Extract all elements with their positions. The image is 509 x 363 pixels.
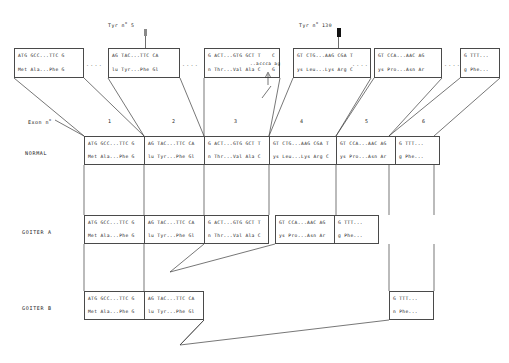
sequence-aminoacid: ys Pro...Asn Ar bbox=[378, 67, 439, 73]
tyr-marker-5-glyph bbox=[144, 29, 147, 36]
sequence-aminoacid: ys Pro...Asn Ar bbox=[279, 233, 332, 239]
sequence-nucleotide: GT CCA...AAC AG bbox=[378, 53, 439, 59]
exon-number-5: 5 bbox=[365, 118, 369, 124]
sequence-nucleotide: ATG GCC...TTC G bbox=[88, 220, 142, 226]
splice-base-above: C bbox=[272, 53, 275, 58]
normal-exon-6: G TTT... g Phe... bbox=[395, 136, 440, 165]
sequence-nucleotide: AG TAC...TTC CA bbox=[148, 141, 202, 147]
sequence-aminoacid: ys Leu...Lys Arg C bbox=[273, 154, 334, 160]
exon-number-6: 6 bbox=[422, 118, 426, 124]
sequence-aminoacid: lu Tyr...Phe Gl bbox=[148, 233, 202, 239]
top-box-exon-5: GT CCA...AAC AG ys Pro...Asn Ar bbox=[374, 48, 442, 78]
sequence-aminoacid: ys Pro...Asn Ar bbox=[340, 154, 393, 160]
row-label-normal: NORMAL bbox=[25, 150, 47, 156]
normal-exon-2: AG TAC...TTC CA lu Tyr...Phe Gl bbox=[144, 136, 204, 165]
ellipsis-top-5-6: .... bbox=[444, 61, 461, 67]
goiter-b-exon-2: AG TAC...TTC CA lu Tyr...Phe Gl bbox=[144, 291, 204, 320]
sequence-aminoacid: n Phe... bbox=[393, 309, 431, 315]
exon-number-3: 3 bbox=[234, 118, 238, 124]
goiter-b-exon-6: G TTT... n Phe... bbox=[389, 291, 434, 320]
sequence-nucleotide: AG TAC...TTC CA bbox=[112, 53, 177, 59]
sequence-nucleotide: G TTT... bbox=[338, 220, 376, 226]
sequence-nucleotide: G ACT...GTG GCT T bbox=[208, 53, 277, 59]
sequence-aminoacid: g Phe... bbox=[338, 233, 376, 239]
splice-base-below: G bbox=[272, 67, 275, 72]
exon-number-4: 4 bbox=[300, 118, 304, 124]
sequence-nucleotide: G ACT...GTG GCT T bbox=[208, 220, 266, 226]
sequence-nucleotide: G TTT... bbox=[399, 141, 437, 147]
goiter-a-exon-6: G TTT... g Phe... bbox=[334, 215, 379, 244]
tyr-marker-5-stem bbox=[145, 36, 146, 48]
tyr-marker-130-glyph bbox=[337, 28, 341, 37]
goiter-a-exon-3: G ACT...GTG GCT T n Thr...Val Ala C bbox=[204, 215, 269, 244]
sequence-aminoacid: n Thr...Val Ala C bbox=[208, 233, 266, 239]
normal-exon-1: ATG GCC...TTC G Met Ala...Phe G bbox=[84, 136, 144, 165]
sequence-nucleotide: ATG GCC...TTC G bbox=[18, 53, 81, 59]
exon-number-1: 1 bbox=[108, 118, 112, 124]
sequence-nucleotide: G TTT... bbox=[464, 53, 497, 59]
goiter-b-row-tail: G TTT... n Phe... bbox=[389, 291, 434, 320]
goiter-a-row-tail: GT CCA...AAC AG ys Pro...Asn Ar G TTT...… bbox=[275, 215, 379, 244]
row-label-goiter-a: GOITER A bbox=[22, 229, 52, 235]
sequence-nucleotide: ATG GCC...TTC G bbox=[88, 141, 142, 147]
normal-exon-5: GT CCA...AAC AG ys Pro...Asn Ar bbox=[336, 136, 395, 165]
sequence-nucleotide: GT CCA...AAC AG bbox=[340, 141, 393, 147]
sequence-aminoacid: ys Leu...Lys Arg C bbox=[297, 67, 368, 73]
sequence-aminoacid: lu Tyr...Phe Gl bbox=[148, 309, 201, 315]
ellipsis-top-1-2: .... bbox=[86, 61, 103, 67]
sequence-aminoacid: Met Ala...Phe G bbox=[18, 67, 81, 73]
sequence-aminoacid: lu Tyr...Phe Gl bbox=[112, 67, 177, 73]
ordinal-superscript: o bbox=[125, 21, 128, 25]
sequence-aminoacid: g Phe... bbox=[399, 154, 437, 160]
goiter-a-exon-2: AG TAC...TTC CA lu Tyr...Phe Gl bbox=[144, 215, 204, 244]
sequence-aminoacid: Met Ala...Phe G bbox=[88, 154, 142, 160]
goiter-a-exon-5: GT CCA...AAC AG ys Pro...Asn Ar bbox=[275, 215, 334, 244]
ellipsis-top-4-5: .... bbox=[352, 61, 369, 67]
sequence-aminoacid: g Phe... bbox=[464, 67, 497, 73]
goiter-b-row: ATG GCC...TTC G Met Ala...Phe G AG TAC..… bbox=[84, 291, 204, 320]
sequence-aminoacid: n Thr...Val Ala C bbox=[208, 67, 277, 73]
sequence-aminoacid: Met Ala...Phe G bbox=[88, 309, 142, 315]
top-box-exon-6: G TTT... g Phe... bbox=[460, 48, 500, 78]
sequence-aminoacid: Met Ala...Phe G bbox=[88, 233, 142, 239]
sequence-nucleotide: AG TAC...TTC CA bbox=[148, 220, 202, 226]
normal-exon-3: G ACT...GTG GCT T n Thr...Val Ala C bbox=[204, 136, 269, 165]
top-box-exon-1: ATG GCC...TTC G Met Ala...Phe G bbox=[14, 48, 84, 78]
tyr-marker-130-stem bbox=[338, 37, 339, 48]
exon-axis-label: Exon no bbox=[28, 118, 52, 125]
ellipsis-top-2-3: .... bbox=[182, 61, 199, 67]
sequence-nucleotide: AG TAC...TTC CA bbox=[148, 296, 201, 302]
sequence-nucleotide: GT CTG...AAG CGA T bbox=[297, 53, 368, 59]
ordinal-superscript: o bbox=[316, 21, 319, 25]
goiter-a-exon-1: ATG GCC...TTC G Met Ala...Phe G bbox=[84, 215, 144, 244]
top-box-exon-2: AG TAC...TTC CA lu Tyr...Phe Gl bbox=[108, 48, 180, 78]
sequence-nucleotide: G ACT...GTG GCT T bbox=[208, 141, 267, 147]
figure-canvas: Tyr no 5 Tyr no 130 ATG GCC...TTC G Met … bbox=[0, 0, 509, 363]
ordinal-superscript: o bbox=[49, 118, 52, 122]
sequence-nucleotide: ATG GCC...TTC G bbox=[88, 296, 142, 302]
sequence-aminoacid: lu Tyr...Phe Gl bbox=[148, 154, 202, 160]
tyr-marker-5-label: Tyr no 5 bbox=[108, 21, 134, 28]
sequence-nucleotide: GT CTG...AAG CGA T bbox=[273, 141, 334, 147]
sequence-nucleotide: G TTT... bbox=[393, 296, 431, 302]
splice-site-sequence: ..accca ag bbox=[250, 61, 280, 66]
goiter-b-exon-1: ATG GCC...TTC G Met Ala...Phe G bbox=[84, 291, 144, 320]
normal-row: ATG GCC...TTC G Met Ala...Phe G AG TAC..… bbox=[84, 136, 440, 165]
exon-number-2: 2 bbox=[172, 118, 176, 124]
goiter-a-row: ATG GCC...TTC G Met Ala...Phe G AG TAC..… bbox=[84, 215, 269, 244]
normal-exon-4: GT CTG...AAG CGA T ys Leu...Lys Arg C bbox=[269, 136, 336, 165]
sequence-nucleotide: GT CCA...AAC AG bbox=[279, 220, 332, 226]
tyr-marker-130-label: Tyr no 130 bbox=[299, 21, 332, 28]
row-label-goiter-b: GOITER B bbox=[22, 305, 52, 311]
sequence-aminoacid: n Thr...Val Ala C bbox=[208, 154, 267, 160]
